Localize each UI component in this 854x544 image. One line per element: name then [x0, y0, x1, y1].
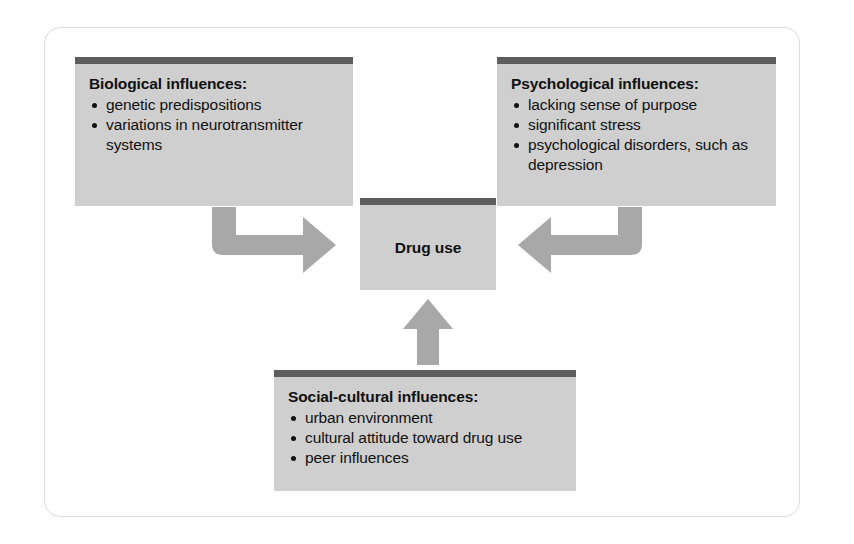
drug-use-title: Drug use	[395, 238, 461, 258]
list-item: cultural attitude toward drug use	[288, 428, 564, 448]
psychological-influences-title: Psychological influences:	[511, 74, 764, 94]
arrow-psychological-to-drug-use-icon	[516, 207, 648, 277]
psychological-influences-box: Psychological influences: lacking sense …	[497, 57, 776, 206]
box-content: Social-cultural influences: urban enviro…	[274, 377, 576, 478]
box-top-bar	[274, 370, 576, 377]
list-item: variations in neurotransmitter systems	[89, 115, 341, 155]
arrow-biological-to-drug-use-icon	[206, 207, 338, 277]
box-content: Biological influences: genetic predispos…	[75, 64, 353, 165]
social-cultural-influences-box: Social-cultural influences: urban enviro…	[274, 370, 576, 491]
list-item: lacking sense of purpose	[511, 95, 764, 115]
arrow-social-to-drug-use-icon	[401, 299, 455, 365]
list-item: peer influences	[288, 448, 564, 468]
drug-use-box: Drug use	[360, 198, 496, 290]
box-top-bar	[497, 57, 776, 64]
box-top-bar	[360, 198, 496, 205]
list-item: psychological disorders, such as depress…	[511, 135, 764, 175]
box-content: Drug use	[360, 205, 496, 290]
biological-influences-title: Biological influences:	[89, 74, 341, 94]
social-cultural-influences-title: Social-cultural influences:	[288, 387, 564, 407]
list-item: urban environment	[288, 408, 564, 428]
biological-influences-list: genetic predispositions variations in ne…	[89, 95, 341, 155]
social-cultural-influences-list: urban environment cultural attitude towa…	[288, 408, 564, 468]
list-item: significant stress	[511, 115, 764, 135]
box-top-bar	[75, 57, 353, 64]
psychological-influences-list: lacking sense of purpose significant str…	[511, 95, 764, 176]
list-item: genetic predispositions	[89, 95, 341, 115]
box-content: Psychological influences: lacking sense …	[497, 64, 776, 185]
biopsychosocial-diagram: Biological influences: genetic predispos…	[0, 0, 854, 544]
biological-influences-box: Biological influences: genetic predispos…	[75, 57, 353, 206]
